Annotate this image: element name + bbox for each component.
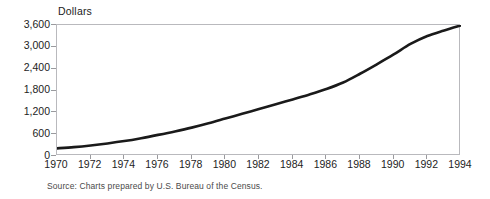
y-tick-label: 600 [4, 128, 50, 139]
chart-figure: Dollars 06001,2001,8002,4003,0003,600 19… [0, 0, 490, 199]
plot-area [56, 24, 460, 155]
line-series-path [57, 25, 461, 148]
y-tick-label: 1,800 [4, 84, 50, 95]
x-axis-labels: 1970197219741976197819801982198419861988… [0, 158, 490, 174]
y-tick-label: 1,200 [4, 106, 50, 117]
line-series-svg [57, 25, 461, 156]
y-axis-title: Dollars [58, 5, 92, 17]
y-tick-label: 3,600 [4, 19, 50, 30]
y-tick-mark [51, 155, 56, 156]
y-tick-label: 3,000 [4, 40, 50, 51]
y-tick-label: 2,400 [4, 62, 50, 73]
x-tick-label: 1994 [440, 158, 480, 170]
source-note: Source: Charts prepared by U.S. Bureau o… [47, 181, 263, 192]
